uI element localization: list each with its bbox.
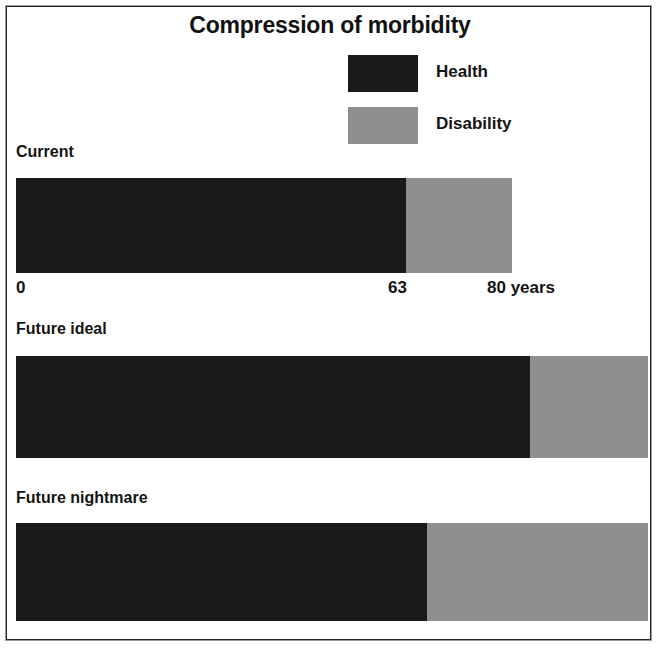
axis-tick-80-years: 80 years <box>487 278 555 298</box>
axis-tick-0: 0 <box>16 278 25 298</box>
chart-figure: Compression of morbidity Health Disabili… <box>0 0 660 652</box>
bar-group-label-future-ideal: Future ideal <box>16 320 107 338</box>
bar-segment-disability-future-nightmare <box>427 523 648 621</box>
bar-segment-health-future-ideal <box>16 356 530 458</box>
stacked-bar-future-ideal <box>16 356 648 458</box>
bar-segment-disability-current <box>406 178 512 273</box>
axis-tick-63: 63 <box>388 278 407 298</box>
bar-group-label-current: Current <box>16 143 74 161</box>
x-axis-current: 0 63 80 years <box>0 278 660 300</box>
chart-title: Compression of morbidity <box>0 12 660 39</box>
legend-label-health: Health <box>436 62 488 82</box>
bar-segment-disability-future-ideal <box>530 356 648 458</box>
bar-group-label-future-nightmare: Future nightmare <box>16 489 148 507</box>
bar-segment-health-current <box>16 178 406 273</box>
legend-swatch-disability-icon <box>348 107 418 144</box>
legend-swatch-health-icon <box>348 55 418 92</box>
bar-segment-health-future-nightmare <box>16 523 427 621</box>
stacked-bar-current <box>16 178 512 273</box>
stacked-bar-future-nightmare <box>16 523 648 621</box>
legend-label-disability: Disability <box>436 114 512 134</box>
